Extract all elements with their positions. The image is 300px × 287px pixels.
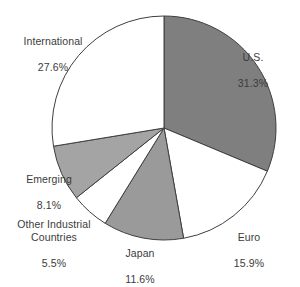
pie-label-japan-name: Japan (102, 247, 178, 260)
pie-label-japan: Japan 11.6% (102, 234, 178, 287)
pie-label-other-industrial-countries-value: 5.5% (0, 257, 108, 270)
pie-label-euro: Euro 15.9% (212, 218, 286, 283)
pie-label-international-name: International (2, 35, 104, 48)
pie-label-japan-value: 11.6% (102, 273, 178, 286)
pie-label-emerging-name: Emerging (2, 173, 96, 186)
pie-label-euro-name: Euro (212, 231, 286, 244)
pie-label-us: U.S. 31.3% (216, 38, 290, 103)
pie-label-emerging-value: 8.1% (2, 199, 96, 212)
pie-label-euro-value: 15.9% (212, 257, 286, 270)
pie-label-international-value: 27.6% (2, 61, 104, 74)
pie-label-us-name: U.S. (216, 51, 290, 64)
pie-label-emerging: Emerging 8.1% (2, 160, 96, 225)
pie-label-us-value: 31.3% (216, 77, 290, 90)
pie-label-international: International 27.6% (2, 22, 104, 87)
